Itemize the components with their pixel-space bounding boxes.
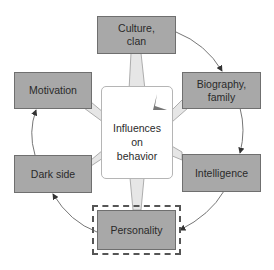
node-dark-side: Dark side [14, 155, 92, 193]
node-biography-label: Biography, family [197, 78, 246, 104]
node-biography: Biography, family [182, 72, 261, 109]
node-motivation-label: Motivation [29, 84, 77, 97]
center-label: Influences on behavior [113, 121, 161, 163]
node-intelligence: Intelligence [182, 154, 261, 192]
node-personality-label: Personality [111, 224, 163, 237]
node-motivation: Motivation [14, 72, 92, 109]
node-intelligence-label: Intelligence [195, 167, 248, 180]
node-dark-side-label: Dark side [31, 168, 75, 181]
node-culture-label: Culture, clan [118, 22, 155, 48]
node-culture: Culture, clan [97, 16, 176, 54]
page-curl-icon [145, 92, 169, 114]
node-personality: Personality [97, 210, 176, 250]
